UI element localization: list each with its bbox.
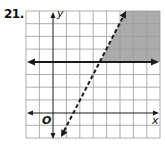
x-axis-arrow-left — [27, 111, 33, 116]
y-axis-arrow-up — [51, 12, 56, 18]
y-axis-label: y — [57, 7, 64, 20]
coordinate-graph — [0, 0, 165, 147]
x-axis-label: x — [152, 114, 159, 127]
origin-label: O — [42, 114, 51, 127]
